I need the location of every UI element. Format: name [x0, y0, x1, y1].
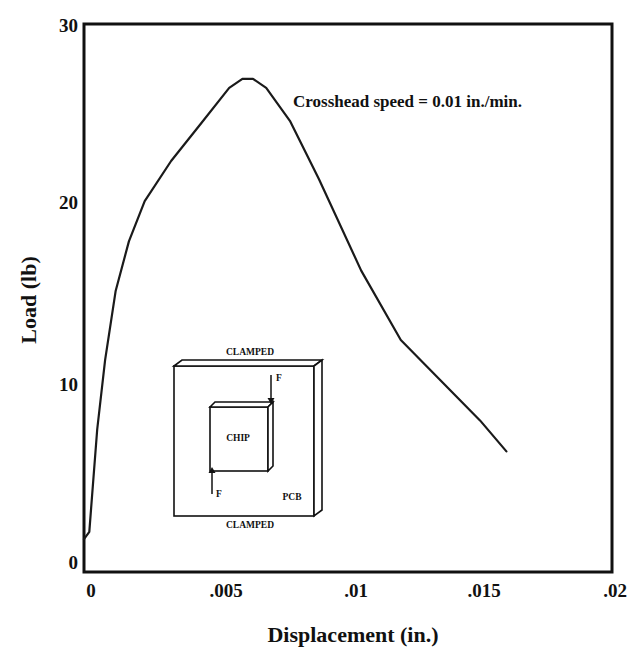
y-axis-label: Load (lb)	[16, 256, 41, 343]
y-tick-10: 10	[59, 374, 78, 395]
chip-side	[268, 402, 273, 471]
x-axis-label: Displacement (in.)	[267, 622, 438, 647]
pcb-board-top	[174, 360, 322, 366]
x-tick-02: .02	[603, 580, 627, 601]
chip-top	[210, 402, 273, 407]
pcb-board-side	[314, 360, 322, 516]
x-tick-015: .015	[467, 580, 500, 601]
y-tick-30: 30	[59, 15, 78, 36]
y-axis-ticks: 30 20 10 0	[59, 15, 78, 573]
x-axis-ticks: 0 .005 .01 .015 .02	[86, 580, 627, 601]
inset-label-clamped-bottom: CLAMPED	[226, 520, 274, 530]
inset-label-pcb: PCB	[283, 492, 303, 502]
inset-label-force-top: F	[276, 373, 282, 383]
x-tick-005: .005	[209, 580, 242, 601]
crosshead-speed-annotation: Crosshead speed = 0.01 in./min.	[293, 92, 522, 111]
x-tick-0: 0	[86, 580, 96, 601]
y-tick-0: 0	[69, 552, 79, 573]
inset-label-clamped-top: CLAMPED	[226, 347, 274, 357]
inset-label-force-bottom: F	[216, 489, 222, 499]
y-tick-20: 20	[59, 192, 78, 213]
pcb-inset-diagram: CLAMPED CLAMPED CHIP PCB F F	[174, 347, 322, 530]
load-displacement-chart: 30 20 10 0 0 .005 .01 .015 .02 Displacem…	[0, 0, 641, 659]
inset-label-chip: CHIP	[226, 433, 250, 443]
x-tick-01: .01	[344, 580, 368, 601]
